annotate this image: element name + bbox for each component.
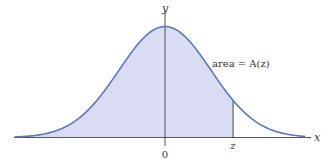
z-label: z	[229, 140, 236, 151]
x-axis-label: x	[314, 131, 321, 144]
y-axis-label: y	[161, 2, 169, 15]
area-label: area = A(z)	[212, 58, 270, 69]
shaded-area-region	[15, 27, 233, 138]
normal-distribution-diagram: y x 0 z area = A(z)	[0, 0, 325, 165]
origin-label: 0	[162, 149, 168, 160]
